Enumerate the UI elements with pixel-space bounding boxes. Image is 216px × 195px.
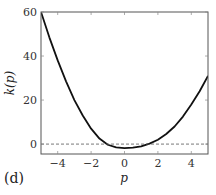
y-tick-label: 40 — [23, 50, 37, 63]
axis-ticks: −4−20240204060 — [23, 6, 208, 170]
k-curve — [41, 12, 208, 148]
x-tick-label: −4 — [50, 157, 66, 170]
plot-area — [41, 12, 208, 154]
x-axis-label: p — [120, 171, 128, 185]
x-tick-label: 4 — [188, 157, 195, 170]
y-tick-label: 20 — [23, 94, 37, 107]
y-tick-label: 0 — [30, 138, 37, 151]
panel-label: (d) — [4, 170, 24, 186]
y-tick-label: 60 — [23, 6, 37, 19]
chart-plot: −4−20240204060 p k(p) — [0, 0, 216, 195]
x-tick-label: −2 — [83, 157, 99, 170]
x-tick-label: 0 — [121, 157, 128, 170]
y-axis-label: k(p) — [3, 71, 17, 96]
x-tick-label: 2 — [154, 157, 161, 170]
